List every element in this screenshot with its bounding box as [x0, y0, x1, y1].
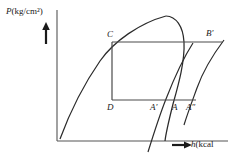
x-axis-label: h(kcal [191, 140, 214, 149]
point-label-a: A [172, 103, 178, 112]
point-label-a-prime: A′ [150, 103, 157, 112]
isentropic-curve-a-double-prime [184, 40, 224, 125]
x-axis-unit: (kcal [196, 139, 214, 149]
point-label-c: C [107, 30, 113, 39]
up-arrow-icon [42, 22, 50, 44]
y-axis-label: P(kg/cm²) [6, 7, 43, 16]
right-arrow-icon [172, 141, 192, 148]
point-label-b-prime: B′ [206, 29, 213, 38]
diagram-canvas [0, 0, 228, 158]
point-label-a-double-prime: A″ [186, 103, 195, 112]
y-axis-unit: (kg/cm²) [12, 6, 43, 16]
point-label-d: D [107, 103, 114, 112]
isentropic-curve-a-prime [148, 43, 193, 152]
p-h-diagram-figure: P(kg/cm²) h(kcal C B′ D A′ A A″ [0, 0, 228, 158]
